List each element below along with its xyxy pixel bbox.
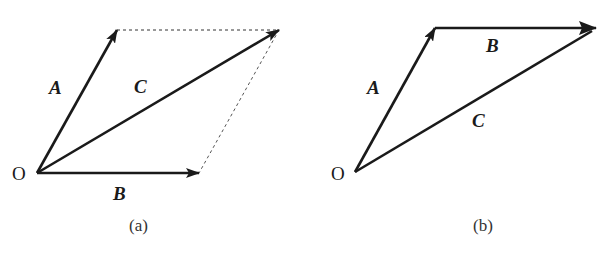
vector-a-arrow bbox=[37, 30, 117, 173]
vector-c-arrow bbox=[37, 30, 279, 173]
vector-a-label-a: A bbox=[49, 77, 62, 99]
vector-a-label-b: A bbox=[367, 77, 380, 99]
dashed-line-right bbox=[199, 30, 279, 173]
origin-label-b: O bbox=[331, 163, 345, 185]
origin-label-a: O bbox=[12, 163, 26, 185]
vector-c-label-b: C bbox=[472, 110, 485, 132]
vector-b-label-a: B bbox=[113, 183, 126, 205]
vector-c-label-a: C bbox=[134, 76, 147, 98]
vector-b-label-b: B bbox=[486, 35, 499, 57]
vector-diagram-canvas bbox=[0, 0, 612, 261]
caption-a: (a) bbox=[129, 216, 148, 236]
vector-a-arrow bbox=[355, 28, 435, 172]
panel-b-triangle bbox=[355, 28, 596, 172]
panel-a-parallelogram bbox=[37, 30, 279, 173]
caption-b: (b) bbox=[473, 216, 493, 236]
vector-c-arrow bbox=[355, 31, 592, 172]
